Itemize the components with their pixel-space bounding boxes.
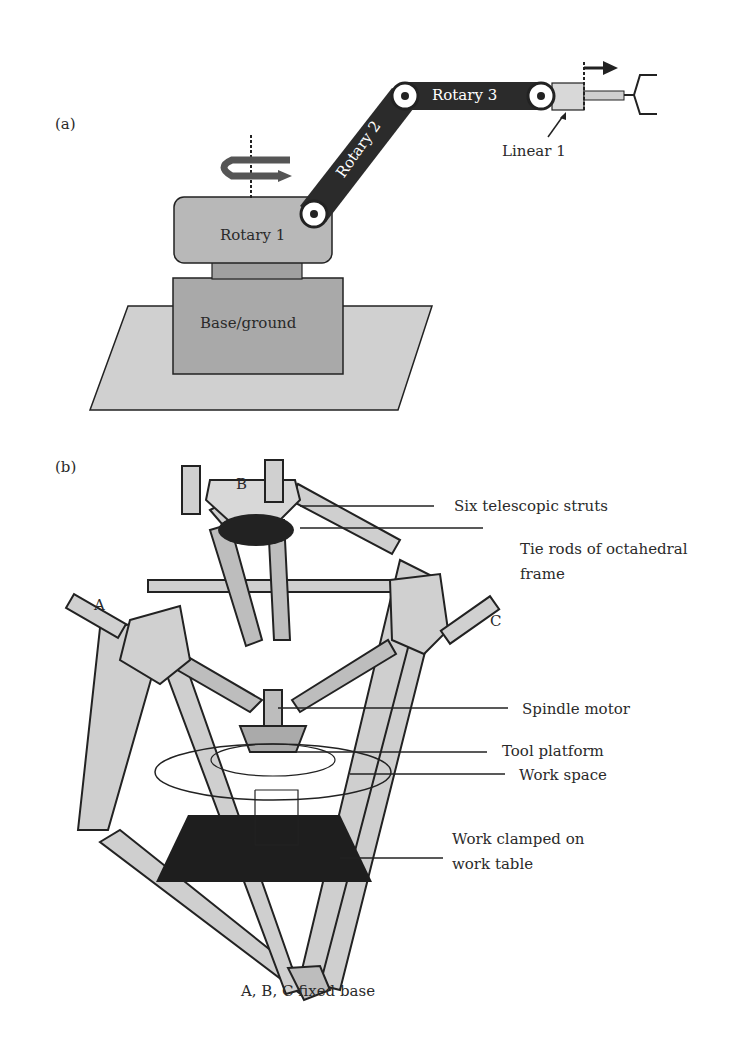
panel-b-hexapod-diagram: [0, 0, 748, 1040]
work-table: [156, 815, 372, 882]
callout-spindle: Spindle motor: [522, 700, 630, 719]
node-c-label: C: [490, 612, 501, 631]
callout-tie-rods-2: frame: [520, 565, 565, 584]
node-a-label: A: [94, 596, 105, 615]
node-b-label: B: [236, 475, 247, 494]
callout-work-space: Work space: [519, 766, 607, 785]
callout-struts: Six telescopic struts: [454, 497, 608, 516]
callout-tool-platform: Tool platform: [502, 742, 604, 761]
figure-caption: A, B, C fixed base: [241, 982, 375, 1001]
callout-tie-rods-1: Tie rods of octahedral: [520, 540, 688, 559]
callout-work-clamped-1: Work clamped on: [452, 830, 584, 849]
callout-work-clamped-2: work table: [452, 855, 533, 874]
panel-b-label: (b): [55, 458, 76, 476]
